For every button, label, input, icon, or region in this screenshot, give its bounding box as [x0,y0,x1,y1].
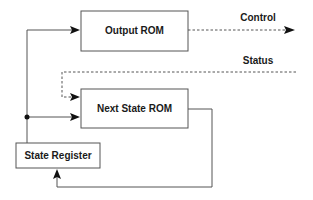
register-to-output-rom-wire [27,30,72,143]
next-state-rom-label: Next State ROM [97,103,172,114]
status-arrow-icon [70,93,80,101]
state-machine-diagram: Output ROM Control Status Next State ROM… [0,0,313,200]
state-register-label: State Register [24,150,91,161]
control-label: Control [240,12,276,23]
status-label: Status [243,55,274,66]
output-rom-block: Output ROM [81,11,188,51]
output-rom-label: Output ROM [105,25,164,36]
next-state-rom-block: Next State ROM [81,89,188,128]
junction-dot [25,115,30,120]
state-register-block: State Register [16,143,100,168]
control-arrow-icon [284,26,295,34]
